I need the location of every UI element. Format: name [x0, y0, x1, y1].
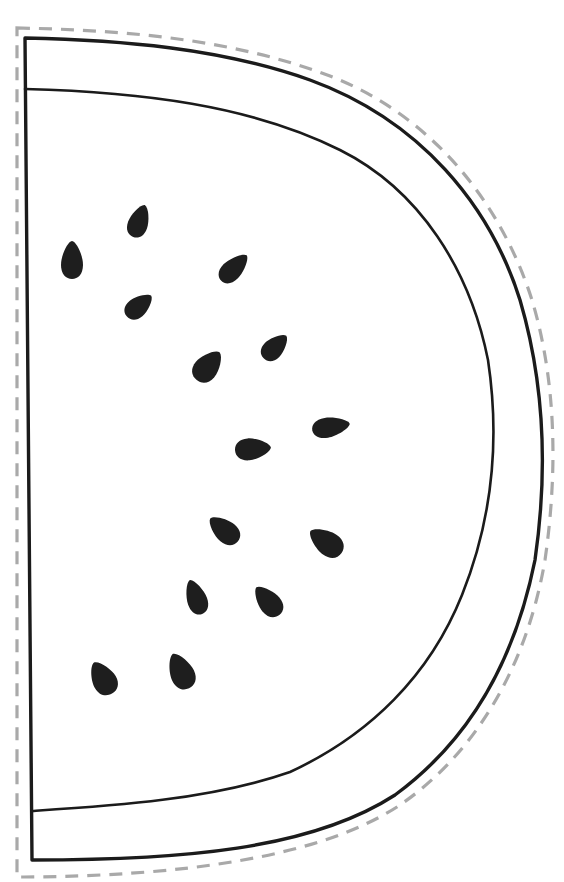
seed-9 [203, 510, 245, 550]
seed-4 [120, 288, 157, 324]
seed-3 [214, 248, 254, 288]
seed-6 [257, 329, 294, 366]
watermelon-template: Watermelon slice template [0, 0, 564, 882]
seed-12 [248, 580, 288, 622]
seed-layer [0, 0, 564, 882]
seed-7 [234, 436, 272, 461]
seed-2 [124, 202, 154, 241]
seed-8 [311, 414, 352, 440]
seed-1 [61, 241, 83, 279]
seed-5 [187, 344, 229, 387]
seed-13 [84, 656, 123, 699]
seed-10 [304, 521, 349, 562]
seed-14 [162, 649, 200, 694]
seed-11 [180, 577, 211, 618]
